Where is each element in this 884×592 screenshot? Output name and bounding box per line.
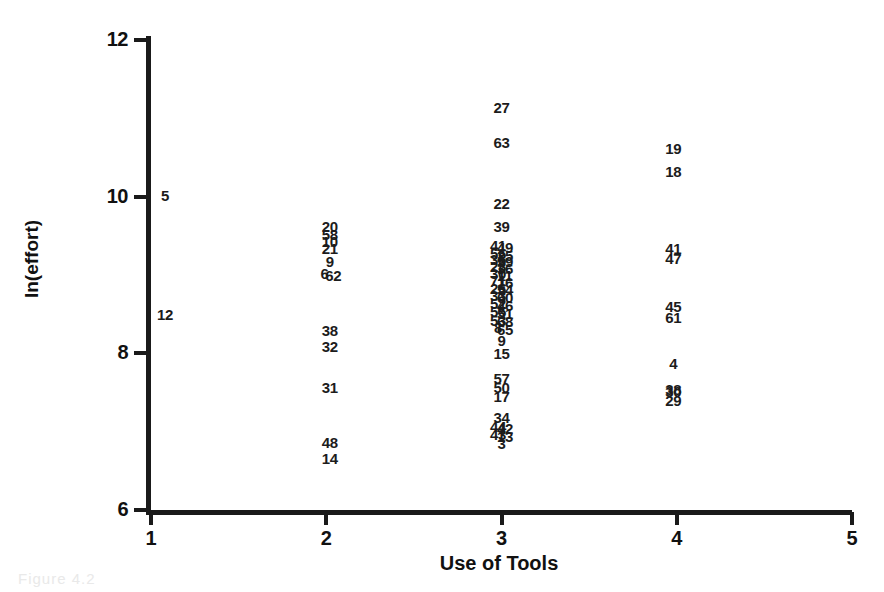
y-tick-mark — [134, 195, 147, 199]
data-point-label: 17 — [493, 388, 509, 403]
data-point-label: 14 — [322, 451, 338, 466]
x-tick-label: 1 — [131, 528, 171, 548]
data-point-label: 22 — [493, 195, 509, 210]
data-point-label: 32 — [322, 339, 338, 354]
data-point-label: 3 — [497, 435, 505, 450]
data-point-label: 31 — [322, 380, 338, 395]
data-point-label: 27 — [493, 99, 509, 114]
data-point-label: 47 — [665, 250, 681, 265]
x-tick-mark — [675, 512, 679, 525]
y-tick-label-text: 12 — [94, 29, 128, 49]
y-tick-label: 6 — [88, 499, 128, 519]
data-point-label: 5 — [161, 188, 169, 203]
data-point-label: 61 — [665, 310, 681, 325]
x-tick-label: 5 — [832, 528, 872, 548]
x-tick-label: 4 — [657, 528, 697, 548]
y-tick-label: 10 — [88, 186, 128, 206]
y-tick-mark — [134, 351, 147, 355]
y-tick-mark — [134, 508, 147, 512]
y-tick-label-text: 8 — [94, 342, 128, 362]
y-axis-title: ln(effort) — [21, 179, 43, 339]
x-tick-label: 3 — [482, 528, 522, 548]
data-point-label: 4 — [669, 355, 677, 370]
data-point-label: 63 — [493, 134, 509, 149]
y-tick-label-text: 10 — [94, 186, 128, 206]
y-tick-mark — [134, 38, 147, 42]
scatter-plot-figure: 121086 12345 ln(effort) Use of Tools Fig… — [0, 0, 884, 592]
x-tick-mark — [324, 512, 328, 525]
x-axis-title: Use of Tools — [146, 552, 852, 575]
data-point-label: 12 — [157, 307, 173, 322]
data-point-label: 48 — [322, 434, 338, 449]
y-tick-label-text: 6 — [94, 499, 128, 519]
x-tick-mark — [850, 512, 854, 525]
figure-caption: Figure 4.2 — [18, 570, 96, 587]
data-point-label: 62 — [325, 268, 341, 283]
data-point-label: 18 — [665, 163, 681, 178]
y-tick-label: 8 — [88, 342, 128, 362]
x-tick-mark — [149, 512, 153, 525]
data-point-label: 38 — [322, 322, 338, 337]
x-tick-mark — [500, 512, 504, 525]
x-tick-label: 2 — [306, 528, 346, 548]
data-point-label: 29 — [665, 392, 681, 407]
data-point-label: 19 — [665, 141, 681, 156]
data-point-label: 39 — [493, 219, 509, 234]
y-tick-label: 12 — [88, 29, 128, 49]
data-point-label: 15 — [493, 346, 509, 361]
